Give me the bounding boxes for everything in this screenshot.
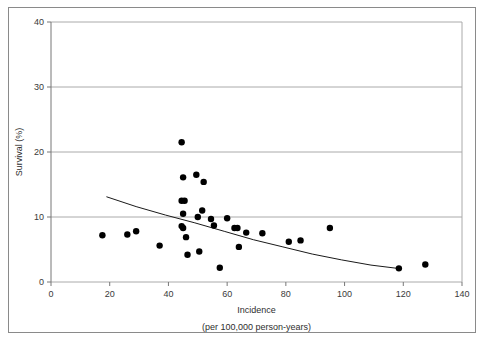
data-point: [99, 232, 105, 238]
y-tick-label: 10: [34, 212, 44, 222]
x-tick-label: 60: [222, 289, 232, 299]
data-point: [297, 237, 303, 243]
scatter-plot: 010203040020406080100120140Incidence(per…: [0, 0, 484, 342]
data-point: [200, 179, 206, 185]
x-tick-label: 20: [105, 289, 115, 299]
data-point: [180, 225, 186, 231]
data-point: [259, 230, 265, 236]
y-axis-title: Survival (%): [14, 128, 24, 177]
y-axis: 010203040: [34, 17, 51, 287]
data-point: [199, 207, 205, 213]
data-point: [224, 215, 230, 221]
data-point: [217, 265, 223, 271]
data-point: [211, 222, 217, 228]
x-tick-label: 140: [454, 289, 469, 299]
data-point: [184, 252, 190, 258]
data-point: [208, 216, 214, 222]
x-tick-label: 80: [281, 289, 291, 299]
data-point: [180, 174, 186, 180]
y-tick-label: 40: [34, 17, 44, 27]
x-axis-title: Incidence: [237, 305, 276, 315]
x-axis: 020406080100120140: [48, 282, 469, 299]
y-tick-label: 20: [34, 147, 44, 157]
data-point: [236, 244, 242, 250]
data-points: [99, 139, 428, 271]
data-point: [181, 198, 187, 204]
x-tick-label: 100: [337, 289, 352, 299]
data-point: [180, 211, 186, 217]
gridlines: [51, 22, 462, 282]
data-point: [195, 214, 201, 220]
y-tick-label: 30: [34, 82, 44, 92]
y-tick-label: 0: [39, 277, 44, 287]
data-point: [327, 225, 333, 231]
data-point: [196, 248, 202, 254]
data-point: [124, 231, 130, 237]
figure-container: 010203040020406080100120140Incidence(per…: [0, 0, 484, 342]
fit-curve: [107, 197, 398, 269]
data-point: [422, 261, 428, 267]
x-tick-label: 120: [396, 289, 411, 299]
data-point: [183, 234, 189, 240]
data-point: [193, 172, 199, 178]
x-tick-label: 40: [163, 289, 173, 299]
data-point: [234, 225, 240, 231]
data-point: [396, 265, 402, 271]
data-point: [133, 228, 139, 234]
data-point: [178, 139, 184, 145]
data-point: [286, 239, 292, 245]
data-point: [156, 242, 162, 248]
data-point: [243, 229, 249, 235]
x-tick-label: 0: [48, 289, 53, 299]
x-axis-subtitle: (per 100,000 person-years): [202, 322, 311, 332]
